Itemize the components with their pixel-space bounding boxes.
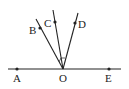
ray-od <box>63 13 78 69</box>
geometry-diagram: A O E B C D <box>0 0 129 89</box>
point-d <box>73 21 76 24</box>
label-c: C <box>44 17 51 29</box>
point-c <box>53 20 56 23</box>
label-b: B <box>29 24 36 36</box>
label-a: A <box>13 72 21 84</box>
label-e: E <box>105 72 112 84</box>
label-o: O <box>59 72 67 84</box>
point-a <box>15 67 18 70</box>
label-d: D <box>78 18 86 30</box>
point-e <box>107 67 110 70</box>
point-b <box>38 26 41 29</box>
